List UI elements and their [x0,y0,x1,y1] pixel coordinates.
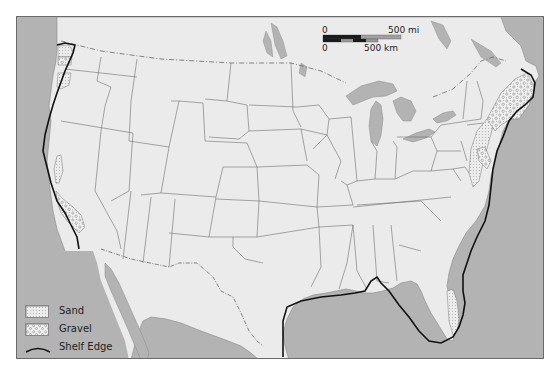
scale-mi-zero: 0 [322,25,328,35]
shelf-edge-line-icon [25,341,51,355]
legend-label-sand: Sand [59,305,84,316]
legend-label-gravel: Gravel [59,323,92,334]
scale-mi-label: 500 mi [388,25,419,35]
scale-km-label: 500 km [364,43,398,53]
scale-km-zero: 0 [322,43,328,53]
legend: Sand Gravel Shelf Edge [22,305,132,357]
gravel-swatch-icon [25,323,49,336]
scale-bar: 0 500 mi 0 500 km [318,20,428,56]
sand-swatch-icon [25,305,49,318]
legend-label-shelf-edge: Shelf Edge [59,341,112,352]
